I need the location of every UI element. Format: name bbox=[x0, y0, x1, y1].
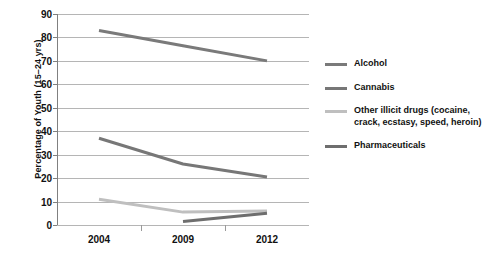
y-tick-label: 40 bbox=[41, 126, 52, 137]
series-line bbox=[99, 138, 267, 177]
y-tick-label: 90 bbox=[41, 9, 52, 20]
series-line bbox=[99, 199, 267, 212]
y-tick-label: 60 bbox=[41, 79, 52, 90]
legend-entry[interactable]: Alcohol bbox=[325, 58, 493, 70]
y-tick-label: 0 bbox=[46, 220, 52, 231]
legend-label: Pharmaceuticals bbox=[354, 140, 426, 152]
y-tick-label: 80 bbox=[41, 32, 52, 43]
x-tick-label: 2009 bbox=[172, 234, 194, 245]
legend-label: Alcohol bbox=[354, 58, 387, 70]
legend-line-swatch bbox=[325, 63, 347, 66]
x-tick-mark bbox=[141, 225, 142, 231]
gridline bbox=[57, 225, 309, 226]
legend-entry[interactable]: Pharmaceuticals bbox=[325, 140, 493, 152]
y-tick-label: 20 bbox=[41, 173, 52, 184]
legend-label: Cannabis bbox=[354, 82, 395, 94]
y-tick-label: 70 bbox=[41, 55, 52, 66]
y-tick-label: 50 bbox=[41, 102, 52, 113]
series-line bbox=[99, 30, 267, 60]
y-tick-label: 10 bbox=[41, 196, 52, 207]
legend-line-swatch bbox=[325, 145, 347, 148]
x-tick-label: 2004 bbox=[88, 234, 110, 245]
x-tick-label: 2012 bbox=[256, 234, 278, 245]
x-tick-mark bbox=[225, 225, 226, 231]
plot-area: 0102030405060708090 200420092012 bbox=[57, 14, 309, 225]
legend-label: Other illicit drugs (cocaine, crack, ecs… bbox=[354, 105, 493, 128]
y-tick-mark bbox=[53, 225, 57, 226]
y-tick-label: 30 bbox=[41, 149, 52, 160]
legend-entry[interactable]: Cannabis bbox=[325, 82, 493, 94]
legend-line-swatch bbox=[325, 87, 347, 90]
series-lines bbox=[57, 14, 309, 225]
plot-frame: 0102030405060708090 200420092012 bbox=[57, 14, 309, 225]
chart-legend: AlcoholCannabisOther illicit drugs (coca… bbox=[325, 58, 493, 164]
legend-entry[interactable]: Other illicit drugs (cocaine, crack, ecs… bbox=[325, 105, 493, 128]
line-chart-figure: Percentage of Youth (15–24 yrs) 01020304… bbox=[0, 0, 493, 254]
legend-line-swatch bbox=[325, 110, 347, 113]
series-line bbox=[183, 213, 267, 221]
